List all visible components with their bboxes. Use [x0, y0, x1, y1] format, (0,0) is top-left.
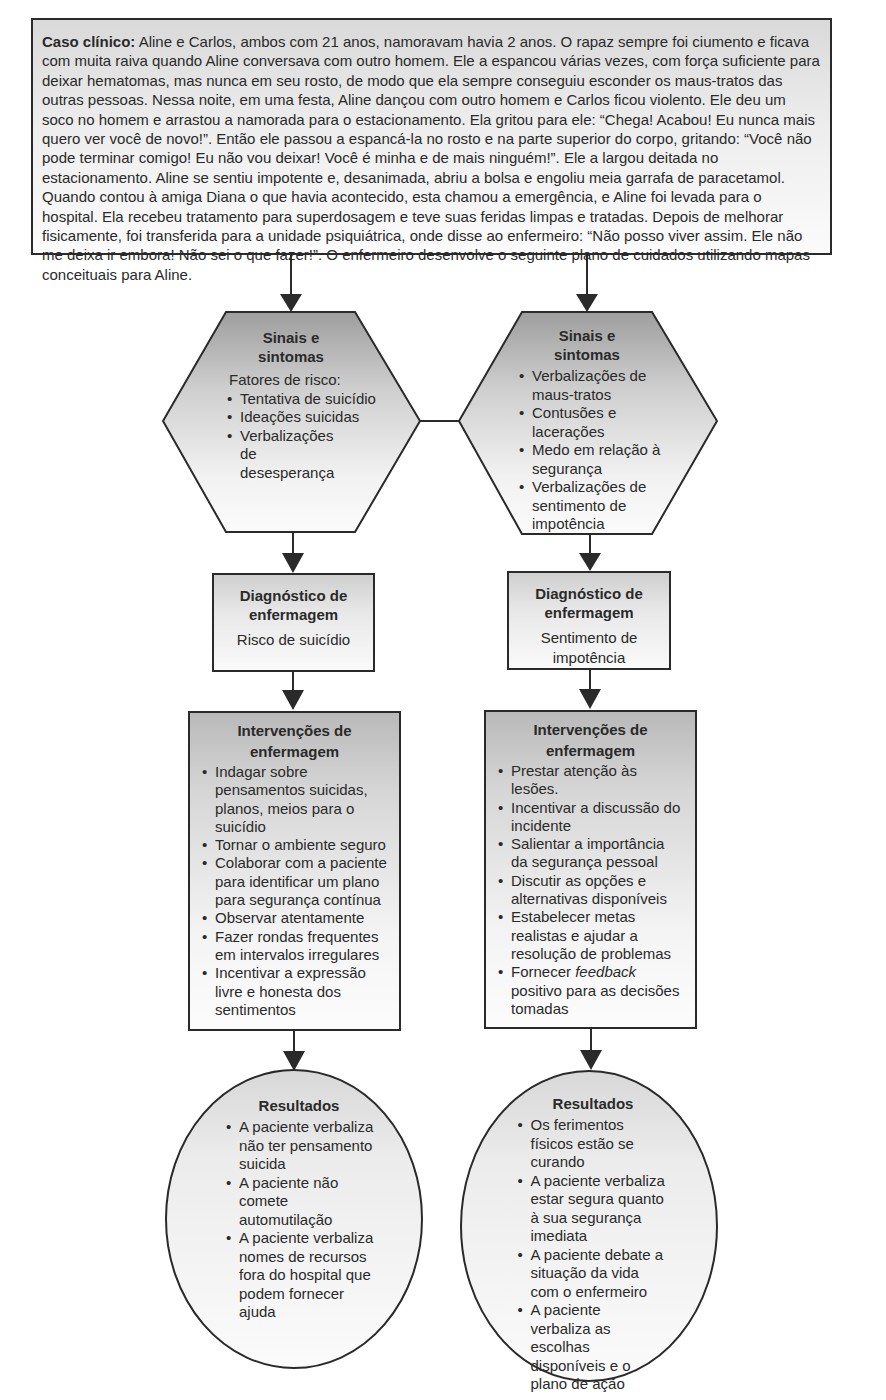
right-result-item: A paciente verbaliza estar segura quanto… [516, 1172, 673, 1246]
right-interventions-title-1: Intervenções de [496, 720, 685, 739]
right-results-title: Resultados [508, 1094, 678, 1113]
left-signs-title-2: sintomas [191, 347, 391, 366]
feedback-prefix: Fornecer [511, 963, 575, 980]
arrow-right-diagnosis-to-interventions [579, 669, 601, 709]
right-signs-item: Verbalizações de sentimento de impotênci… [517, 478, 674, 534]
left-results-content: Resultados A paciente verbaliza não ter … [214, 1096, 384, 1322]
left-diagnosis-title-1: Diagnóstico de [214, 586, 373, 605]
right-signs-content: Sinais e sintomas Verbalizações de maus-… [487, 326, 687, 534]
left-diagnosis-title-2: enfermagem [214, 605, 373, 624]
right-interventions-box: Intervenções de enfermagem Prestar atenç… [484, 710, 697, 1029]
right-signs-title-1: Sinais e [487, 326, 687, 345]
case-text: Aline e Carlos, ambos com 21 anos, namor… [42, 33, 820, 283]
left-signs-content: Sinais e sintomas Fatores de risco: Tent… [191, 328, 391, 482]
left-interventions-list: Indagar sobre pensamentos suicidas, plan… [200, 763, 389, 1019]
right-diagnosis-value: Sentimento de impotência [509, 628, 669, 668]
left-intervention-item: Tornar o ambiente seguro [200, 836, 389, 854]
left-intervention-item: Colaborar com a paciente para identifica… [200, 854, 389, 909]
right-result-item: A paciente debate a situação da vida com… [516, 1246, 671, 1302]
right-result-item: Os ferimentos físicos estão se curando [516, 1116, 671, 1172]
left-diagnosis-box: Diagnóstico de enfermagem Risco de suicí… [212, 573, 375, 672]
right-results-list: Os ferimentos físicos estão se curando A… [516, 1116, 671, 1394]
left-intervention-item: Observar atentamente [200, 909, 389, 927]
feedback-italic: feedback [575, 963, 636, 980]
left-results-title: Resultados [214, 1096, 384, 1115]
left-interventions-box: Intervenções de enfermagem Indagar sobre… [188, 711, 401, 1031]
left-interventions-title-2: enfermagem [200, 742, 389, 761]
right-results-content: Resultados Os ferimentos físicos estão s… [508, 1094, 678, 1394]
left-signs-item: Ideações suicidas [225, 408, 376, 427]
left-signs-title-1: Sinais e [191, 328, 391, 347]
right-intervention-item: Fornecer feedback positivo para as decis… [496, 963, 685, 1018]
arrow-left-diagnosis-to-interventions [282, 671, 304, 710]
case-description-box: Caso clínico: Aline e Carlos, ambos com … [31, 18, 832, 255]
left-interventions-title-1: Intervenções de [200, 721, 389, 740]
right-signs-item: Verbalizações de maus-tratos [517, 367, 667, 404]
left-intervention-item: Incentivar a expressão livre e honesta d… [200, 964, 389, 1019]
right-diagnosis-box: Diagnóstico de enfermagem Sentimento de … [507, 571, 671, 670]
left-result-item: A paciente verbaliza não ter pensamento … [224, 1118, 374, 1174]
left-result-item: A paciente verbaliza nomes de recursos f… [224, 1229, 374, 1322]
right-intervention-item: Salientar a importância da segurança pes… [496, 835, 685, 872]
right-intervention-item: Prestar atenção às lesões. [496, 762, 685, 799]
right-result-item: A paciente verbaliza as escolhas disponí… [516, 1301, 661, 1394]
arrow-right-interventions-to-results [580, 1028, 602, 1070]
right-intervention-item: Discutir as opções e alternativas dispon… [496, 872, 685, 909]
arrow-left-interventions-to-results [283, 1030, 305, 1071]
left-signs-list: Tentativa de suicídio Ideações suicidas … [225, 390, 376, 483]
right-diagnosis-title-2: enfermagem [509, 603, 669, 622]
left-diagnosis-value: Risco de suicídio [214, 630, 373, 650]
left-signs-item: Tentativa de suicídio [225, 390, 376, 409]
left-signs-item: Verbalizações de desesperança [225, 427, 350, 483]
right-signs-item: Medo em relação à segurança [517, 441, 667, 478]
left-intervention-item: Indagar sobre pensamentos suicidas, plan… [200, 763, 389, 836]
arrow-right-signs-to-diagnosis [579, 534, 601, 571]
left-results-list: A paciente verbaliza não ter pensamento … [224, 1118, 374, 1322]
left-signs-intro: Fatores de risco: [229, 371, 391, 390]
right-signs-item: Contusões e lacerações [517, 404, 632, 441]
feedback-suffix: positivo para as decisões tomadas [511, 982, 679, 1017]
case-label: Caso clínico: [42, 33, 135, 50]
left-result-item: A paciente não comete automutilação [224, 1174, 374, 1230]
right-diagnosis-title-1: Diagnóstico de [509, 584, 669, 603]
right-signs-title-2: sintomas [487, 345, 687, 364]
right-interventions-title-2: enfermagem [496, 741, 685, 760]
right-interventions-list: Prestar atenção às lesões. Incentivar a … [496, 762, 685, 1018]
arrow-left-signs-to-diagnosis [282, 532, 304, 573]
right-signs-list: Verbalizações de maus-tratos Contusões e… [517, 367, 667, 534]
right-intervention-item: Incentivar a discussão do incidente [496, 799, 685, 836]
left-intervention-item: Fazer rondas frequentes em intervalos ir… [200, 928, 389, 965]
right-intervention-item: Estabelecer metas realistas e ajudar a r… [496, 908, 685, 963]
